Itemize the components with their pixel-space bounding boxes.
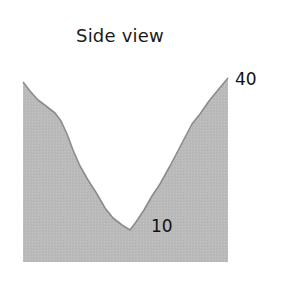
valley-profile-shape [0,0,283,284]
elevation-label-top: 40 [235,69,257,89]
elevation-label-bottom: 10 [151,216,173,236]
side-view-diagram: Side view 40 10 [0,0,283,284]
valley-fill [23,78,228,262]
